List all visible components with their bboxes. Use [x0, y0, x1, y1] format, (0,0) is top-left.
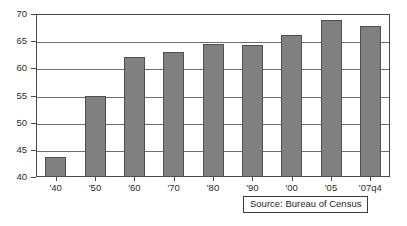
x-tick-label: '40: [49, 183, 61, 193]
x-tick-mark: [292, 177, 293, 181]
y-tick-label: 55: [16, 91, 27, 101]
bar: [321, 20, 342, 177]
x-tick-mark: [56, 177, 57, 181]
bar: [163, 52, 184, 178]
y-tick-label: 70: [16, 9, 27, 19]
x-tick-mark: [331, 177, 332, 181]
bar: [45, 157, 66, 177]
x-tick-mark: [134, 177, 135, 181]
y-tick-label: 60: [16, 64, 27, 74]
x-tick-label: '05: [325, 183, 337, 193]
y-tick-label: 65: [16, 36, 27, 46]
x-tick-label: '60: [128, 183, 140, 193]
y-tick-label: 40: [16, 172, 27, 182]
bar: [360, 26, 381, 177]
x-tick-mark: [252, 177, 253, 181]
y-tick-label: 50: [16, 118, 27, 128]
x-tick-mark: [174, 177, 175, 181]
bars-group: [36, 14, 390, 177]
x-tick-label: '70: [167, 183, 179, 193]
bar-chart: 40455055606570 '40'50'60'70'80'90'00'05'…: [0, 0, 407, 226]
bar: [203, 44, 224, 177]
source-note: Source: Bureau of Census: [243, 196, 368, 213]
y-axis: 40455055606570: [0, 0, 36, 191]
x-tick-label: '00: [285, 183, 297, 193]
x-tick-label: '80: [207, 183, 219, 193]
x-tick-mark: [95, 177, 96, 181]
x-tick-label: '07q4: [359, 183, 382, 193]
y-tick-label: 45: [16, 145, 27, 155]
x-tick-label: '50: [89, 183, 101, 193]
x-tick-label: '90: [246, 183, 258, 193]
bar: [281, 35, 302, 177]
x-axis: '40'50'60'70'80'90'00'05'07q4: [36, 177, 390, 197]
bar: [242, 45, 263, 177]
x-tick-mark: [213, 177, 214, 181]
bar: [85, 96, 106, 178]
x-tick-mark: [370, 177, 371, 181]
bar: [124, 57, 145, 177]
